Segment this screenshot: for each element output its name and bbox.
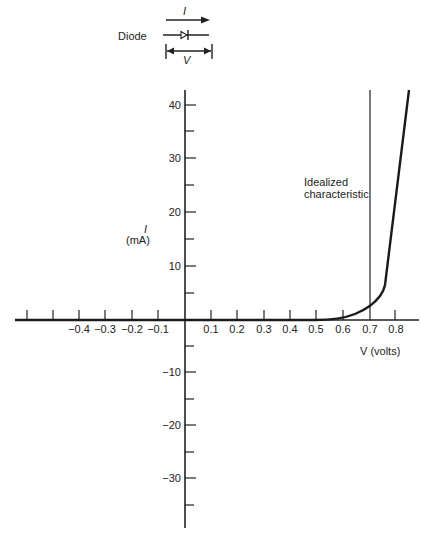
- x-tick-label: 0.6: [335, 323, 350, 335]
- diode-label: Diode: [118, 30, 147, 42]
- y-axis-ticks: [185, 105, 196, 505]
- diode-symbol-icon: [163, 30, 209, 40]
- annotation-line1: Idealized: [304, 176, 348, 188]
- annotation-line2: characteristic: [304, 188, 369, 200]
- y-tick-label: −30: [162, 472, 181, 484]
- y-tick-labels: 40 30 20 10 −10 −20 −30: [162, 99, 181, 484]
- x-tick-label: 0.4: [282, 323, 297, 335]
- y-tick-label: 40: [169, 99, 181, 111]
- current-arrow-icon: [166, 17, 210, 24]
- y-tick-label: 20: [169, 206, 181, 218]
- x-tick-label: 0.8: [388, 323, 403, 335]
- y-tick-label: −10: [162, 366, 181, 378]
- y-tick-label: 30: [169, 152, 181, 164]
- x-tick-label: −0.4: [68, 323, 90, 335]
- y-axis-unit: (mA): [126, 234, 150, 246]
- x-tick-label: 0.1: [203, 323, 218, 335]
- diode-iv-chart: Diode I V −0.4 −0.3 −0.2: [0, 0, 421, 542]
- y-tick-label: −20: [162, 419, 181, 431]
- x-axis-label: V (volts): [360, 345, 400, 357]
- x-tick-labels: −0.4 −0.3 −0.2 −0.1 0.1 0.2 0.3 0.4 0.5 …: [68, 323, 404, 335]
- x-tick-label: 0.5: [308, 323, 323, 335]
- x-tick-label: 0.7: [362, 323, 377, 335]
- x-tick-label: 0.2: [229, 323, 244, 335]
- voltage-symbol: V: [183, 54, 192, 66]
- x-tick-label: −0.1: [147, 323, 169, 335]
- current-symbol: I: [183, 5, 186, 17]
- x-tick-label: 0.3: [256, 323, 271, 335]
- diode-curve: [15, 90, 409, 320]
- y-tick-label: 10: [169, 260, 181, 272]
- x-tick-label: −0.2: [121, 323, 143, 335]
- x-tick-label: −0.3: [94, 323, 116, 335]
